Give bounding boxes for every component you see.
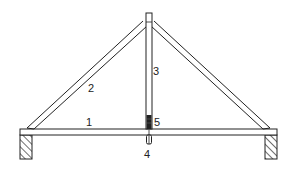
label-tie-beam: 1 (86, 116, 92, 128)
left-rafter (27, 21, 147, 129)
left-support (20, 135, 32, 159)
strap (146, 115, 152, 129)
right-support (265, 135, 277, 159)
right-rafter (151, 21, 270, 129)
truss-diagram: 1 2 3 4 5 (0, 0, 293, 170)
label-strap: 5 (154, 116, 160, 128)
label-bolt: 4 (144, 148, 150, 160)
tie-beam (20, 129, 277, 135)
label-king-post: 3 (153, 65, 159, 77)
king-post (146, 13, 152, 129)
label-rafter: 2 (88, 82, 94, 94)
